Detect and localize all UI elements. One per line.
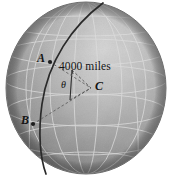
globe-rim-shadow: [6, 2, 166, 174]
distance-label: 4000 miles: [59, 61, 111, 73]
point-b-label: B: [21, 114, 29, 126]
point-a-label: A: [37, 52, 45, 64]
sphere-diagram-canvas: [0, 0, 172, 177]
angle-theta-label: θ: [61, 80, 66, 90]
point-a-marker: [48, 60, 52, 64]
point-b-marker: [31, 122, 35, 126]
globe-body: [0, 0, 172, 177]
point-c-label: C: [95, 80, 103, 92]
sphere-diagram: A B C 4000 miles θ: [0, 0, 172, 177]
